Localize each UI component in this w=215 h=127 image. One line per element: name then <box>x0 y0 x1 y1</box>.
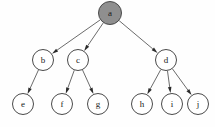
node-label-d: d <box>164 55 169 65</box>
arrowhead-a-to-b <box>52 49 58 54</box>
arrowhead-b-to-e <box>28 88 32 94</box>
node-label-c: c <box>76 55 80 65</box>
edge-d-to-j <box>172 69 187 90</box>
arrowhead-d-to-i <box>168 87 172 93</box>
edge-c-to-g <box>83 70 91 88</box>
edge-a-to-b <box>57 20 100 50</box>
arrowhead-d-to-h <box>147 88 152 94</box>
node-label-b: b <box>41 55 46 65</box>
edge-a-to-d <box>119 21 153 49</box>
node-g[interactable]: g <box>88 94 109 115</box>
arrowhead-d-to-j <box>186 89 191 95</box>
edge-d-to-h <box>150 70 160 89</box>
node-j[interactable]: j <box>188 94 209 115</box>
node-label-h: h <box>140 99 145 109</box>
arrowhead-a-to-c <box>84 45 89 51</box>
node-label-e: e <box>21 99 25 109</box>
edge-a-to-c <box>88 23 104 46</box>
arrowhead-c-to-g <box>89 88 93 94</box>
node-b[interactable]: b <box>33 50 54 71</box>
node-h[interactable]: h <box>132 94 153 115</box>
node-c[interactable]: c <box>68 50 89 71</box>
edge-b-to-e <box>30 70 38 88</box>
arrowhead-c-to-f <box>66 87 70 93</box>
edge-d-to-i <box>167 71 169 87</box>
tree-diagram-canvas: abcdefghij <box>0 0 215 127</box>
node-i[interactable]: i <box>162 94 183 115</box>
node-label-j: j <box>196 99 200 109</box>
node-a[interactable]: a <box>99 2 122 25</box>
node-label-f: f <box>61 99 64 109</box>
tree-diagram-svg: abcdefghij <box>0 0 215 127</box>
node-e[interactable]: e <box>13 94 34 115</box>
node-label-g: g <box>96 99 101 109</box>
node-label-a: a <box>108 8 112 18</box>
nodes-layer: abcdefghij <box>13 2 209 115</box>
node-f[interactable]: f <box>52 94 73 115</box>
node-d[interactable]: d <box>156 50 177 71</box>
edge-c-to-f <box>68 70 74 88</box>
